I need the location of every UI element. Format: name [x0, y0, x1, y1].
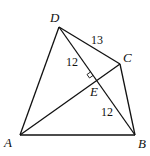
geometry-diagram: D C A B E 13 12 12 — [0, 0, 150, 156]
length-EB: 12 — [101, 105, 113, 119]
length-DC: 13 — [91, 33, 103, 47]
diagonal-AC — [20, 64, 120, 135]
label-E: E — [89, 84, 98, 99]
length-DE: 12 — [66, 55, 78, 69]
label-B: B — [138, 136, 146, 151]
label-A: A — [3, 135, 12, 150]
segment-DA — [20, 27, 59, 135]
label-D: D — [49, 10, 60, 25]
label-C: C — [123, 50, 132, 65]
